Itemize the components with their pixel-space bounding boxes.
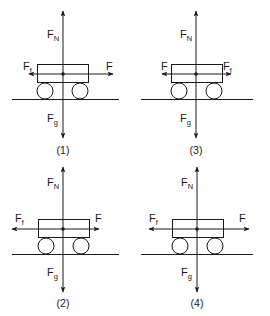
gravity-force-label: Fg [47, 112, 58, 127]
gravity-force-label: Fg [181, 266, 192, 281]
cart-wheel-left [172, 238, 188, 254]
diagram-caption: (4) [191, 297, 204, 309]
diagram-1: FN Fg Ff F (1) [12, 11, 119, 156]
diagram-caption: (3) [190, 144, 203, 156]
center-of-mass-dot [61, 227, 65, 231]
normal-force-label: FN [47, 28, 59, 43]
cart-wheel-right [207, 238, 223, 254]
cart-wheel-left [171, 83, 187, 99]
right-force-label: F [239, 212, 246, 224]
left-force-label: F [161, 60, 168, 72]
center-of-mass-dot [195, 227, 199, 231]
cart-wheel-left [37, 83, 53, 99]
right-force-label: F [95, 212, 102, 224]
left-force-label: Ff [15, 212, 25, 227]
diagram-4: FN Fg Ff F (4) [141, 167, 253, 309]
left-force-label: Ff [149, 212, 159, 227]
normal-force-label: FN [180, 28, 192, 43]
normal-force-label: FN [47, 176, 59, 191]
cart-wheel-right [73, 238, 89, 254]
normal-force-label: FN [181, 176, 193, 191]
right-force-label: F [106, 60, 113, 72]
gravity-force-label: Fg [180, 112, 191, 127]
free-body-diagrams-figure: FN Fg Ff F (1) FN Fg F Ff (3) FN Fg Ff [0, 0, 270, 316]
gravity-force-label: Fg [47, 266, 58, 281]
left-force-label: Ff [23, 60, 33, 75]
diagram-caption: (1) [57, 144, 70, 156]
right-force-label: Ff [223, 60, 233, 75]
diagram-2: FN Fg Ff F (2) [12, 167, 119, 309]
diagram-3: FN Fg F Ff (3) [141, 11, 253, 156]
center-of-mass-dot [61, 72, 65, 76]
center-of-mass-dot [194, 72, 198, 76]
diagram-caption: (2) [57, 297, 70, 309]
cart-wheel-left [38, 238, 54, 254]
cart-wheel-right [206, 83, 222, 99]
cart-wheel-right [72, 83, 88, 99]
